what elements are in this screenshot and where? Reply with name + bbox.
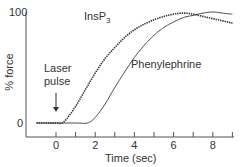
series-label-phenylephrine: Phenylephrine: [131, 58, 201, 70]
y-tick-label-0: 0: [17, 117, 23, 129]
x-tick-label: 0: [53, 139, 59, 151]
series-label-insp3: InsP3: [84, 10, 110, 27]
annotation-line-1: Laser: [44, 62, 72, 75]
x-tick-label: 4: [131, 139, 137, 151]
x-axis-ticks: [56, 132, 232, 137]
annotation-laser: Laser pulse: [44, 62, 72, 88]
force-time-chart: [0, 0, 240, 167]
series-label-insp3-subscript: 3: [106, 16, 110, 25]
x-tick-label: 2: [92, 139, 98, 151]
y-tick-label-100: 100: [9, 6, 27, 18]
series-label-insp3-text: InsP: [84, 10, 106, 22]
laser-pulse-arrow-icon: [53, 93, 59, 112]
x-axis-title: Time (sec): [105, 152, 157, 164]
x-tick-label: 8: [210, 139, 216, 151]
x-tick-label: 6: [171, 139, 177, 151]
annotation-line-2: pulse: [44, 75, 72, 88]
y-axis-title: % force: [3, 53, 15, 90]
